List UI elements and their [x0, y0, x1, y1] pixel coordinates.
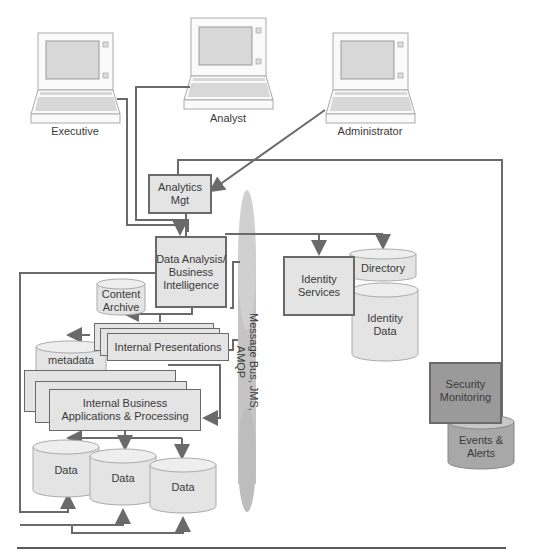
security-monitoring-label: Security Monitoring [429, 362, 502, 420]
data-label-2: Data [90, 470, 156, 486]
content-archive-label: Content Archive [97, 288, 145, 314]
data-label-3: Data [150, 479, 216, 495]
internal-business-label: Internal Business Applications & Process… [49, 389, 201, 431]
laptop-icon-executive [31, 33, 120, 123]
internal-presentations-label: Internal Presentations [107, 333, 229, 361]
laptop-icon-analyst [184, 18, 273, 109]
directory-label: Directory [350, 259, 416, 277]
identity-data-label: Identity Data [352, 305, 418, 345]
events-alerts-label: Events & Alerts [448, 432, 514, 462]
user-label-administrator: Administrator [325, 125, 415, 138]
laptop-icon-administrator [326, 33, 415, 123]
user-label-analyst: Analyst [193, 112, 263, 125]
analytics-mgt-label: Analytics Mgt [148, 174, 212, 214]
data-analysis-label: Data Analysis/ Business Intelligence [155, 236, 227, 308]
user-label-executive: Executive [40, 125, 110, 138]
identity-services-label: Identity Services [283, 256, 355, 316]
metadata-label: metadata [36, 352, 106, 368]
message-bus-label: Message Bus, JMS, AMQP [238, 300, 256, 424]
